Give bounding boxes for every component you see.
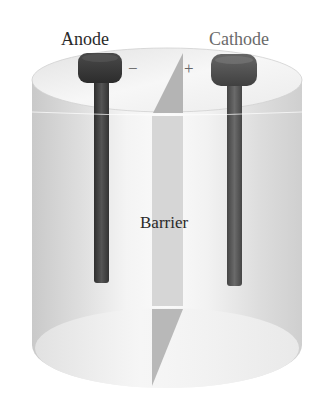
positive-sign: + — [184, 60, 194, 77]
cell-illustration — [0, 0, 325, 409]
battery-cell-diagram: Anode Cathode Barrier − + — [0, 0, 325, 409]
negative-sign: − — [128, 60, 138, 77]
cathode-label: Cathode — [209, 30, 269, 48]
anode-label: Anode — [61, 30, 109, 48]
barrier-label: Barrier — [140, 214, 188, 231]
